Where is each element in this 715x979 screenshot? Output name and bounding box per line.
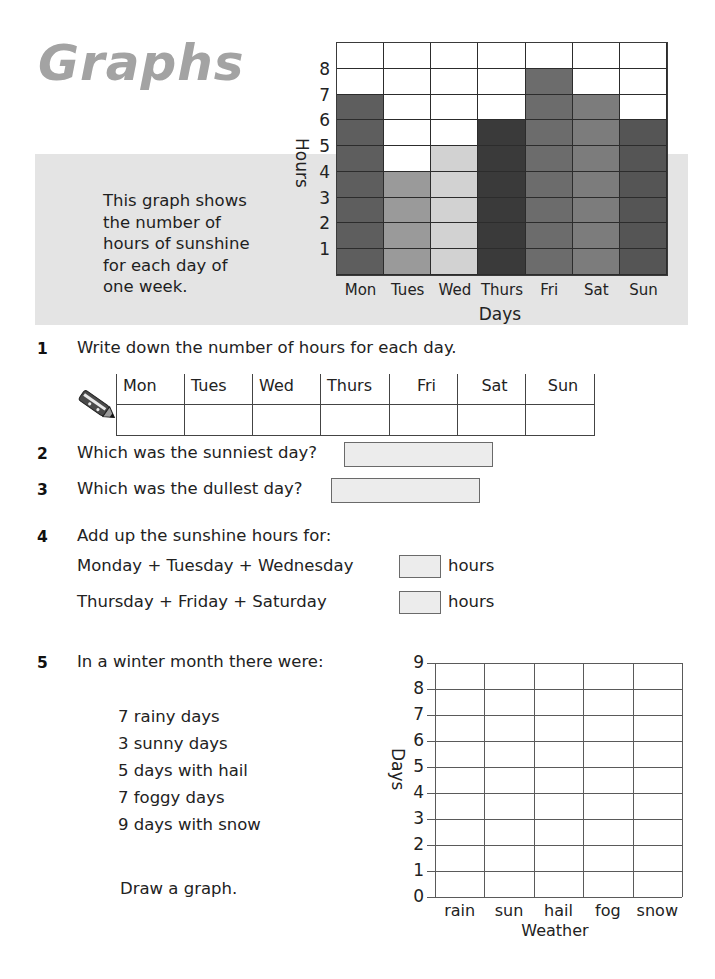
bar-segment	[526, 69, 573, 95]
bar-segment	[478, 43, 525, 69]
grid-line	[682, 663, 683, 897]
page-title: Graphs	[38, 34, 245, 92]
bar-segment	[337, 146, 384, 172]
table-header-mon: Mon	[117, 374, 185, 404]
bar-segment	[620, 95, 667, 121]
grid-line	[583, 663, 584, 897]
bar-segment	[573, 43, 620, 69]
bar-segment	[337, 95, 384, 121]
question-3-text: Which was the dullest day?	[77, 479, 303, 498]
bar-segment	[337, 249, 384, 275]
y-tick-label: 7	[404, 704, 424, 724]
grid-line	[427, 767, 682, 768]
bar-segment	[620, 43, 667, 69]
bar-segment	[526, 146, 573, 172]
weather-chart-grid[interactable]	[435, 663, 682, 897]
bar-segment	[620, 120, 667, 146]
x-tick-label: hail	[534, 901, 583, 920]
sum-answer-box-1[interactable]	[399, 555, 441, 578]
bar-segment	[573, 198, 620, 224]
dullest-day-answer-box[interactable]	[331, 478, 480, 503]
y-tick-label: 3	[404, 808, 424, 828]
pencil-icon	[74, 388, 122, 424]
x-tick-label: sun	[484, 901, 533, 920]
bar-segment	[384, 120, 431, 146]
bar-segment	[384, 223, 431, 249]
grid-line	[427, 871, 682, 872]
bar-segment	[384, 172, 431, 198]
question-number: 2	[37, 445, 48, 463]
weather-item: 7 rainy days	[118, 707, 220, 726]
grid-line	[427, 845, 682, 846]
question-number: 1	[37, 340, 48, 358]
y-tick-label: 2	[404, 834, 424, 854]
bar-segment	[526, 120, 573, 146]
y-tick-label: 8	[404, 678, 424, 698]
grid-line	[427, 793, 682, 794]
grid-line	[534, 663, 535, 897]
x-tick-label: Tues	[384, 281, 431, 299]
bar-segment	[573, 120, 620, 146]
bar-segment	[620, 249, 667, 275]
question-4-text: Add up the sunshine hours for:	[77, 526, 331, 545]
y-tick-label: 4	[310, 162, 330, 182]
bar-segment	[337, 172, 384, 198]
x-tick-label: fog	[583, 901, 632, 920]
panel-line: the number of	[103, 212, 283, 234]
sum-answer-box-2[interactable]	[399, 591, 441, 614]
bar-segment	[526, 172, 573, 198]
grid-line	[427, 663, 682, 664]
answer-cell-tues[interactable]	[185, 404, 253, 435]
table-header-sun: Sun	[526, 374, 595, 404]
sunniest-day-answer-box[interactable]	[344, 442, 493, 467]
bar-segment	[573, 249, 620, 275]
question-2-text: Which was the sunniest day?	[77, 443, 317, 462]
question-number: 4	[37, 528, 48, 546]
table-header-fri: Fri	[390, 374, 458, 404]
table-header-wed: Wed	[253, 374, 321, 404]
grid-line	[484, 663, 485, 897]
sunshine-chart-y-label: Hours	[292, 138, 312, 178]
sum-row-label-1: Monday + Tuesday + Wednesday	[77, 556, 353, 575]
x-tick-label: Mon	[337, 281, 384, 299]
y-tick-label: 7	[310, 85, 330, 105]
bar-segment	[478, 69, 525, 95]
question-1-text: Write down the number of hours for each …	[77, 338, 457, 357]
bar-segment	[384, 95, 431, 121]
sunshine-chart-x-label: Days	[470, 304, 530, 324]
bar-segment	[573, 172, 620, 198]
answer-cell-sun[interactable]	[526, 404, 595, 435]
y-tick-label: 0	[404, 886, 424, 906]
bar-segment	[337, 223, 384, 249]
x-tick-label: Thurs	[478, 281, 525, 299]
bar-segment	[620, 172, 667, 198]
answer-cell-mon[interactable]	[117, 404, 185, 435]
table-header-thurs: Thurs	[321, 374, 390, 404]
y-tick-label: 6	[404, 730, 424, 750]
x-tick-label: rain	[435, 901, 484, 920]
answer-cell-sat[interactable]	[458, 404, 526, 435]
bar-segment	[526, 198, 573, 224]
answer-cell-thurs[interactable]	[321, 404, 390, 435]
hours-table-header-row: Mon Tues Wed Thurs Fri Sat Sun	[117, 374, 595, 404]
answer-cell-wed[interactable]	[253, 404, 321, 435]
x-tick-label: Sun	[620, 281, 667, 299]
bar-segment	[620, 69, 667, 95]
y-tick-label: 5	[310, 136, 330, 156]
bar-segment	[573, 146, 620, 172]
bar-segment	[620, 223, 667, 249]
sum-row-label-2: Thursday + Friday + Saturday	[77, 592, 327, 611]
hours-table-answer-row	[117, 404, 595, 435]
bar-segment	[431, 249, 478, 275]
bar-segment	[431, 69, 478, 95]
weather-chart-x-label: Weather	[510, 921, 600, 940]
bar-segment	[337, 198, 384, 224]
answer-cell-fri[interactable]	[390, 404, 458, 435]
bar-segment	[431, 43, 478, 69]
bar-segment	[478, 146, 525, 172]
weather-chart-y-label: Days	[388, 748, 408, 788]
y-tick-label: 3	[310, 188, 330, 208]
bar-segment	[337, 69, 384, 95]
bar-segment	[337, 120, 384, 146]
weather-item: 9 days with snow	[118, 815, 261, 834]
